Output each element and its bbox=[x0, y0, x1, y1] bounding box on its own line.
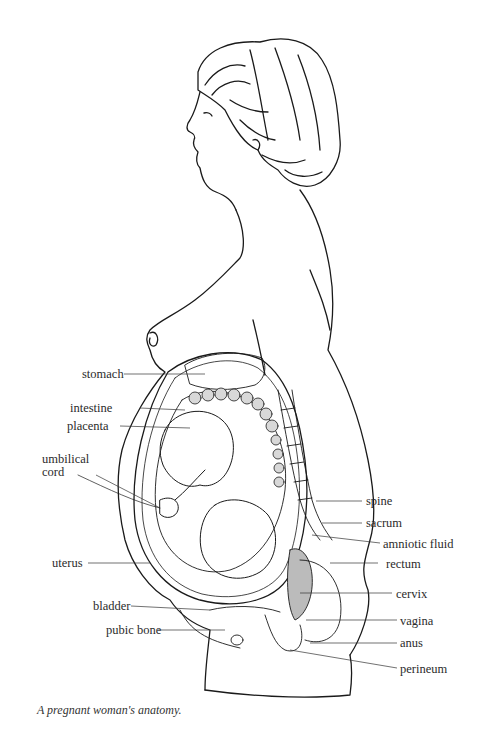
label-amniotic-fluid: amniotic fluid bbox=[383, 537, 453, 551]
anatomy-illustration bbox=[0, 0, 479, 743]
arm-outline bbox=[310, 270, 330, 330]
label-pubic-bone: pubic bone bbox=[106, 623, 161, 637]
nipple bbox=[149, 332, 157, 346]
front-outline bbox=[118, 210, 243, 690]
label-rectum: rectum bbox=[386, 557, 421, 571]
label-cervix: cervix bbox=[396, 587, 427, 601]
label-vagina: vagina bbox=[400, 614, 433, 628]
label-umbilical: umbilical bbox=[42, 452, 89, 466]
pelvic-organs-drawing bbox=[180, 549, 341, 651]
label-cord: cord bbox=[42, 465, 64, 479]
label-anus: anus bbox=[400, 636, 423, 650]
stomach-drawing bbox=[185, 353, 265, 389]
label-perineum: perineum bbox=[400, 662, 447, 676]
label-placenta: placenta bbox=[67, 419, 109, 433]
hair-drawing bbox=[198, 39, 340, 186]
label-intestine: intestine bbox=[70, 401, 112, 415]
label-stomach: stomach bbox=[82, 367, 124, 381]
bottom-outline bbox=[205, 655, 352, 697]
label-bladder: bladder bbox=[93, 599, 130, 613]
label-sacrum: sacrum bbox=[366, 516, 402, 530]
label-spine: spine bbox=[366, 494, 392, 508]
figure-caption: A pregnant woman's anatomy. bbox=[37, 703, 182, 718]
label-uterus: uterus bbox=[52, 556, 83, 570]
fetus-drawing bbox=[78, 411, 276, 578]
